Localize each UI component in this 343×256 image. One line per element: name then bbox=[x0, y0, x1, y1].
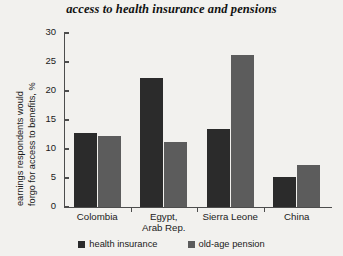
y-axis-tick-mark bbox=[64, 177, 69, 178]
legend-label-old-age-pension: old-age pension bbox=[199, 239, 265, 249]
legend-swatch-health-insurance bbox=[78, 241, 85, 248]
y-axis-tick-label: 25 bbox=[45, 55, 56, 66]
bar-old-age-pension bbox=[164, 142, 187, 207]
x-axis-category-label: Sierra Leone bbox=[197, 211, 264, 222]
legend-swatch-old-age-pension bbox=[188, 241, 195, 248]
chart-container: access to health insurance and pensions … bbox=[0, 0, 343, 256]
legend-item-old-age-pension: old-age pension bbox=[188, 239, 265, 249]
y-axis-tick-mark bbox=[64, 90, 69, 91]
bar-health-insurance bbox=[273, 177, 296, 207]
chart-title: access to health insurance and pensions bbox=[0, 2, 343, 17]
y-axis-tick-label: 15 bbox=[45, 113, 56, 124]
y-axis-title-line-2: forgo for access to benefits, % bbox=[27, 82, 39, 206]
y-axis-tick-label: 5 bbox=[51, 171, 56, 182]
y-axis-tick-mark bbox=[64, 206, 69, 207]
y-axis-title-line-1: earnings respondents would bbox=[15, 91, 27, 206]
y-axis-tick-label: 30 bbox=[45, 26, 56, 37]
x-axis-category-label: Egypt, Arab Rep. bbox=[131, 211, 198, 233]
y-axis-tick-label: 0 bbox=[51, 200, 56, 211]
y-axis-tick-mark bbox=[64, 32, 69, 33]
y-axis-tick-label: 10 bbox=[45, 142, 56, 153]
chart-legend: health insurance old-age pension bbox=[0, 239, 343, 249]
bar-old-age-pension bbox=[231, 55, 254, 207]
y-axis-tick-mark bbox=[64, 148, 69, 149]
bar-health-insurance bbox=[140, 78, 163, 207]
bar-old-age-pension bbox=[98, 136, 121, 207]
legend-item-health-insurance: health insurance bbox=[78, 239, 157, 249]
y-axis-tick-label: 20 bbox=[45, 84, 56, 95]
bar-health-insurance bbox=[207, 129, 230, 207]
bar-health-insurance bbox=[74, 133, 97, 207]
bar-old-age-pension bbox=[297, 165, 320, 207]
y-axis-title: earnings respondents would forgo for acc… bbox=[4, 34, 38, 206]
plot-area bbox=[64, 33, 330, 207]
x-axis-category-label: Colombia bbox=[64, 211, 131, 222]
x-axis-category-label: China bbox=[264, 211, 331, 222]
y-axis-tick-mark bbox=[64, 61, 69, 62]
legend-label-health-insurance: health insurance bbox=[89, 239, 157, 249]
y-axis-tick-mark bbox=[64, 119, 69, 120]
